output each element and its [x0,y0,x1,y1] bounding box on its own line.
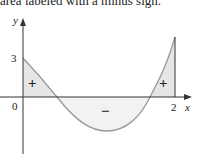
x-tick-2: 2 [171,101,177,113]
y-axis-arrow-icon [20,18,26,26]
minus-sign: − [101,103,110,119]
chart: y x 3 0 2 + − + [0,0,200,166]
x-tick-0: 0 [12,100,18,112]
plus-sign-right: + [159,75,168,91]
x-axis-arrow-icon [184,94,192,100]
plus-sign-left: + [28,75,37,91]
x-axis-label: x [184,101,190,113]
y-axis-label: y [12,14,18,26]
y-tick-3: 3 [11,52,17,64]
